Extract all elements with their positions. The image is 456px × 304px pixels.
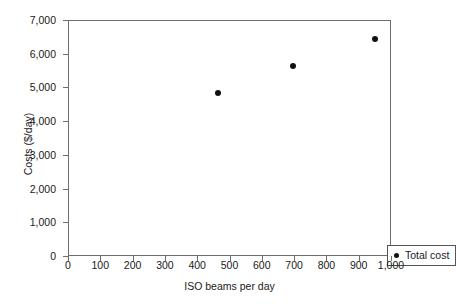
x-axis-title: ISO beams per day xyxy=(68,280,391,292)
y-tick-label: 6,000 xyxy=(30,48,56,59)
x-tick-mark xyxy=(326,256,327,261)
x-tick-mark xyxy=(294,256,295,261)
y-axis-title: Costs ($/day) xyxy=(22,69,34,219)
data-point xyxy=(290,63,296,69)
x-tick-label: 500 xyxy=(221,260,239,271)
x-tick-mark xyxy=(359,256,360,261)
x-tick-mark xyxy=(230,256,231,261)
x-tick-mark xyxy=(68,256,69,261)
x-tick-label: 1,000 xyxy=(378,260,404,271)
x-tick-mark xyxy=(262,256,263,261)
x-tick-label: 300 xyxy=(156,260,174,271)
data-point xyxy=(372,36,378,42)
x-tick-label: 600 xyxy=(253,260,271,271)
x-tick-label: 700 xyxy=(285,260,303,271)
legend-marker-icon xyxy=(394,253,399,258)
x-tick-mark xyxy=(391,256,392,261)
x-tick-label: 900 xyxy=(350,260,368,271)
plot-area: Total cost xyxy=(68,20,391,256)
legend-label-total-cost: Total cost xyxy=(405,250,449,261)
y-tick-label: 7,000 xyxy=(30,15,56,26)
y-tick-label: 0 xyxy=(50,251,56,262)
x-tick-label: 400 xyxy=(188,260,206,271)
x-tick-mark xyxy=(165,256,166,261)
x-tick-label: 800 xyxy=(318,260,336,271)
x-tick-label: 0 xyxy=(65,260,71,271)
data-point xyxy=(215,90,221,96)
x-tick-label: 100 xyxy=(92,260,110,271)
x-tick-mark xyxy=(197,256,198,261)
x-tick-mark xyxy=(100,256,101,261)
x-tick-label: 200 xyxy=(124,260,142,271)
x-tick-mark xyxy=(133,256,134,261)
